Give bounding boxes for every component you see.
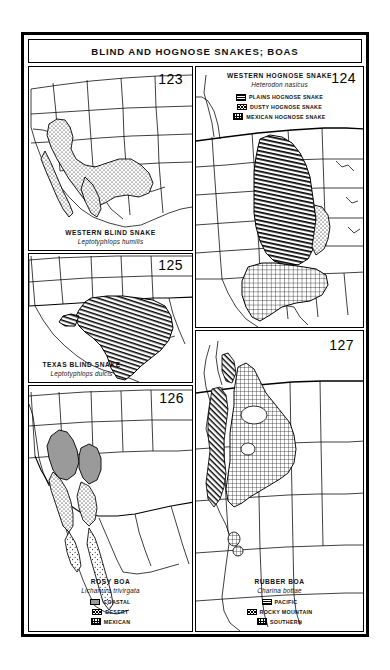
map-rubber-boa bbox=[196, 331, 363, 631]
legend-row-plains-hognose-snake: PLAINS HOGNOSE SNAKE bbox=[236, 93, 323, 102]
legend-label-mexican-hognose-snake: MEXICAN HOGNOSE SNAKE bbox=[246, 114, 325, 120]
map-plate: BLIND AND HOGNOSE SNAKES; BOAS bbox=[21, 32, 369, 637]
legend-label-plains-hognose-snake: PLAINS HOGNOSE SNAKE bbox=[249, 94, 323, 100]
page-number-126: 126 bbox=[159, 390, 184, 406]
legend-row-dusty-hognose-snake: DUSTY HOGNOSE SNAKE bbox=[237, 103, 322, 112]
legend-label-southern: SOUTHERN bbox=[270, 619, 302, 625]
legend-row-southern: SOUTHERN bbox=[257, 617, 302, 626]
legend-swatch-desert bbox=[92, 609, 102, 616]
page-number-124: 124 bbox=[331, 70, 356, 86]
legend-rubber-boa: PACIFIC ROCKY MOUNTAIN SOUTHERN bbox=[196, 598, 363, 627]
legend-row-mexican-hognose-snake: MEXICAN HOGNOSE SNAKE bbox=[233, 112, 325, 121]
legend-row-coastal: COASTAL bbox=[90, 598, 130, 607]
legend-label-coastal: COASTAL bbox=[103, 599, 130, 605]
map-svg-texas-blind-snake bbox=[29, 254, 192, 382]
legend-row-pacific: PACIFIC bbox=[262, 598, 298, 607]
legend-swatch-mexican-hognose-snake bbox=[233, 113, 243, 120]
legend-swatch-dusty-hognose-snake bbox=[237, 104, 247, 111]
legend-swatch-mexican bbox=[91, 618, 101, 625]
legend-swatch-rocky-mountain bbox=[247, 609, 257, 616]
page-number-127: 127 bbox=[329, 337, 354, 353]
map-svg-rubber-boa bbox=[196, 331, 363, 631]
panel-texas-blind-snake[interactable]: 125 TEXAS BLIND SNAKE Leptotyphlops dulc… bbox=[28, 253, 193, 383]
legend-swatch-plains-hognose-snake bbox=[236, 94, 246, 101]
map-svg-western-blind-snake bbox=[29, 67, 192, 250]
page-number-123: 123 bbox=[158, 71, 183, 87]
panel-rubber-boa[interactable]: 127 RUBBER BOA Charina bottae PACIFIC RO… bbox=[195, 330, 364, 632]
legend-western-hognose-snake: PLAINS HOGNOSE SNAKE DUSTY HOGNOSE SNAKE… bbox=[196, 93, 363, 122]
legend-label-dusty-hognose-snake: DUSTY HOGNOSE SNAKE bbox=[250, 104, 322, 110]
legend-label-rocky-mountain: ROCKY MOUNTAIN bbox=[260, 609, 313, 615]
map-rosy-boa bbox=[29, 386, 192, 631]
page-number-125: 125 bbox=[158, 257, 183, 273]
plate-title: BLIND AND HOGNOSE SNAKES; BOAS bbox=[91, 46, 298, 57]
legend-label-mexican: MEXICAN bbox=[104, 619, 131, 625]
map-western-blind-snake bbox=[29, 67, 192, 250]
legend-row-rocky-mountain: ROCKY MOUNTAIN bbox=[247, 608, 313, 617]
legend-rosy-boa: COASTAL DESERT MEXICAN bbox=[29, 598, 192, 627]
legend-swatch-southern bbox=[257, 618, 267, 625]
panel-western-blind-snake[interactable]: 123 WESTERN BLIND SNAKE Leptotyphlops hu… bbox=[28, 66, 193, 251]
legend-label-pacific: PACIFIC bbox=[275, 599, 298, 605]
legend-row-mexican: MEXICAN bbox=[91, 617, 131, 626]
legend-label-desert: DESERT bbox=[105, 609, 128, 615]
panel-rosy-boa[interactable]: 126 ROSY BOA Lichanura trivirgata COASTA… bbox=[28, 385, 193, 632]
legend-swatch-pacific bbox=[262, 599, 272, 606]
panel-western-hognose-snake[interactable]: 124 WESTERN HOGNOSE SNAKE Heterodon nasi… bbox=[195, 66, 364, 328]
plate-title-bar: BLIND AND HOGNOSE SNAKES; BOAS bbox=[28, 39, 362, 63]
map-svg-rosy-boa bbox=[29, 386, 192, 631]
legend-swatch-coastal bbox=[90, 599, 100, 606]
legend-row-desert: DESERT bbox=[92, 608, 128, 617]
map-texas-blind-snake bbox=[29, 254, 192, 382]
